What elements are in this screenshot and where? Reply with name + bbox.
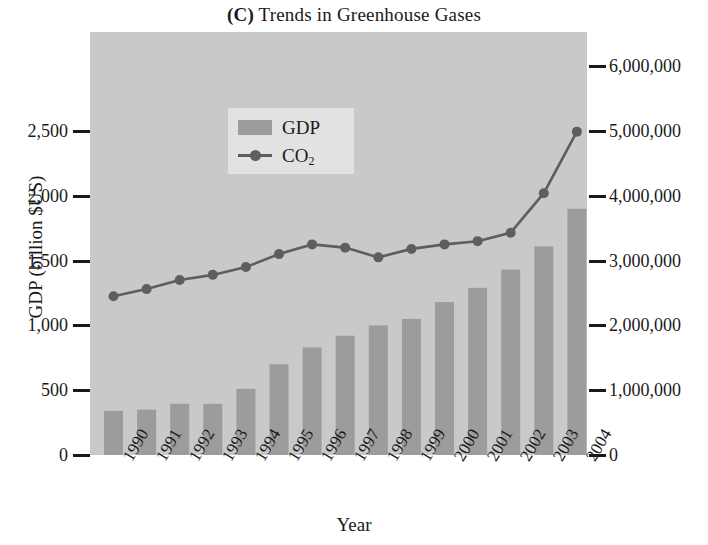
gdp-bar-1990	[104, 411, 123, 455]
y-axis-right-tick-mark	[589, 130, 606, 133]
co2-point-1996	[307, 239, 317, 249]
plot-svg	[90, 32, 587, 455]
y-axis-left-tick-mark	[73, 454, 90, 457]
co2-point-1999	[406, 244, 416, 254]
co2-point-1993	[208, 270, 218, 280]
panel-letter: (C)	[227, 4, 254, 25]
legend-label-co2-sub: 2	[308, 154, 314, 168]
co2-point-1995	[274, 249, 284, 259]
y-axis-right-tick-mark	[589, 260, 606, 263]
y-axis-right-tick-mark	[589, 454, 606, 457]
chart-title-text: Trends in Greenhouse Gases	[254, 4, 481, 25]
y-axis-left-tick-mark	[73, 260, 90, 263]
legend-line-marker-icon	[238, 148, 272, 163]
co2-point-1991	[142, 284, 152, 294]
co2-point-2001	[473, 236, 483, 246]
co2-point-2002	[506, 228, 516, 238]
y-axis-left-title: GDP (billion $US)	[25, 107, 47, 387]
chart-title: (C) Trends in Greenhouse Gases	[0, 4, 708, 26]
y-axis-right-tick-labels: 6,000,0005,000,0004,000,0003,000,0002,00…	[609, 32, 708, 455]
co2-point-1992	[175, 275, 185, 285]
y-axis-right-tick-4000000: 4,000,000	[609, 187, 681, 205]
y-axis-right-tick-2000000: 2,000,000	[609, 316, 681, 334]
co2-point-1997	[340, 243, 350, 253]
gdp-bar-2003	[534, 246, 553, 455]
co2-point-2000	[440, 239, 450, 249]
co2-point-1994	[241, 262, 251, 272]
co2-point-1998	[373, 252, 383, 262]
x-axis-title: Year	[0, 514, 708, 536]
y-axis-right-tick-mark	[589, 195, 606, 198]
legend-bar-swatch-icon	[238, 120, 272, 135]
y-axis-left-tick-mark	[73, 389, 90, 392]
legend-label-gdp: GDP	[282, 118, 320, 137]
gdp-bar-2004	[567, 209, 586, 455]
legend-item-gdp: GDP	[238, 114, 320, 140]
y-axis-left-tick-0: 0	[59, 446, 68, 464]
legend-label-co2-main: CO	[282, 145, 308, 166]
chart-legend: GDP CO2	[228, 108, 354, 174]
y-axis-right-tick-1000000: 1,000,000	[609, 381, 681, 399]
x-axis-tick-labels: 1990199119921993199419951996199719981999…	[90, 455, 587, 515]
co2-point-2004	[572, 127, 582, 137]
y-axis-right-tick-0: 0	[609, 446, 618, 464]
y-axis-right-tick-mark	[589, 65, 606, 68]
y-axis-left-tick-mark	[73, 130, 90, 133]
co2-point-2003	[539, 188, 549, 198]
y-axis-right-tick-mark	[589, 389, 606, 392]
y-axis-right-tick-3000000: 3,000,000	[609, 252, 681, 270]
legend-item-co2: CO2	[238, 142, 314, 168]
greenhouse-gases-chart-figure: (C) Trends in Greenhouse Gases 2,5002,00…	[0, 0, 708, 545]
y-axis-right-tick-6000000: 6,000,000	[609, 57, 681, 75]
y-axis-right-tick-5000000: 5,000,000	[609, 122, 681, 140]
plot-area: GDP CO2	[90, 32, 587, 455]
y-axis-left-tick-mark	[73, 324, 90, 327]
legend-label-co2: CO2	[282, 146, 314, 165]
y-axis-left-tick-mark	[73, 195, 90, 198]
y-axis-right-tick-mark	[589, 324, 606, 327]
co2-point-1990	[109, 291, 119, 301]
